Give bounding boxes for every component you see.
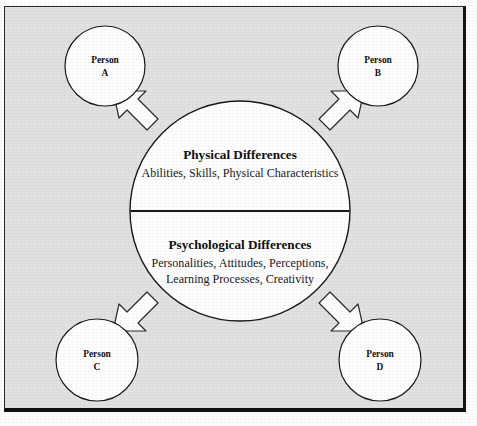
arrow-to-person-c	[113, 292, 158, 331]
person-b-label-line1: Person	[364, 55, 392, 65]
person-d-label-line1: Person	[366, 349, 394, 359]
person-d-label-line2: D	[377, 362, 384, 372]
person-d-node: Person D	[339, 319, 421, 401]
person-a-node: Person A	[65, 26, 145, 106]
person-b-label-line2: B	[375, 68, 381, 78]
figure-canvas: Physical Differences Abilities, Skills, …	[0, 0, 477, 426]
person-a-label-line2: A	[102, 68, 109, 78]
arrow-to-person-d	[319, 292, 364, 331]
psychological-differences-title: Psychological Differences	[169, 237, 312, 252]
person-a-label-line1: Person	[91, 55, 119, 65]
psychological-differences-detail-1: Personalities, Attitudes, Perceptions,	[151, 256, 328, 270]
physical-differences-title: Physical Differences	[183, 147, 297, 162]
person-b-node: Person B	[338, 26, 418, 106]
person-c-node: Person C	[56, 319, 138, 401]
physical-differences-detail-1: Abilities, Skills, Physical Characterist…	[141, 166, 338, 180]
psychological-differences-detail-2: Learning Processes, Creativity	[166, 272, 314, 286]
diagram-graphics: Physical Differences Abilities, Skills, …	[0, 0, 477, 426]
person-c-label-line1: Person	[83, 349, 111, 359]
central-circle	[130, 101, 350, 321]
person-c-label-line2: C	[94, 362, 101, 372]
